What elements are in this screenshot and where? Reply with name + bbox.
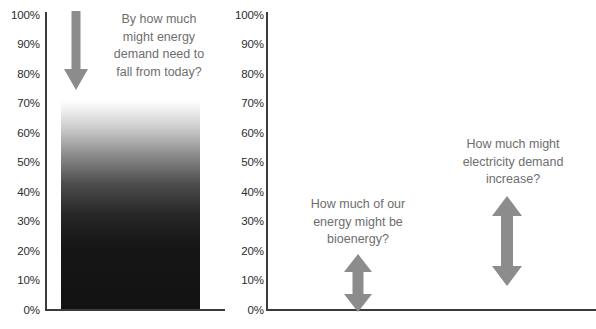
y-tick-label: 40%	[228, 186, 264, 198]
y-tick-label: 50%	[0, 156, 40, 168]
y-tick-label: 100%	[0, 9, 40, 21]
y-tick-label: 60%	[0, 127, 40, 139]
panel-energy-demand: 100% 90% 80% 70% 60% 50% 40% 30% 20% 10%…	[0, 0, 232, 329]
y-axis-line	[45, 12, 47, 311]
bioenergy-annotation: How much of our energy might be bioenerg…	[294, 196, 422, 249]
y-tick-label: 30%	[0, 215, 40, 227]
y-tick-label: 20%	[0, 245, 40, 257]
electricity-range-arrow-double-icon	[490, 196, 524, 286]
y-tick-label: 10%	[228, 274, 264, 286]
y-tick-label: 70%	[0, 97, 40, 109]
x-axis-line	[45, 309, 225, 311]
y-tick-label: 0%	[0, 304, 40, 316]
x-axis-line	[266, 309, 596, 311]
energy-demand-bar	[61, 100, 200, 309]
y-tick-label: 80%	[228, 68, 264, 80]
bioenergy-range-arrow-double-icon	[342, 254, 374, 312]
energy-scenario-figure: 100% 90% 80% 70% 60% 50% 40% 30% 20% 10%…	[0, 0, 596, 329]
y-tick-label: 100%	[228, 9, 264, 21]
y-tick-label: 30%	[228, 215, 264, 227]
y-tick-label: 70%	[228, 97, 264, 109]
y-tick-label: 50%	[228, 156, 264, 168]
y-tick-label: 40%	[0, 186, 40, 198]
demand-fall-annotation: By how much might energy demand need to …	[96, 11, 222, 81]
y-axis-line	[266, 12, 268, 311]
electricity-demand-annotation: How much might electricity demand increa…	[439, 136, 587, 189]
y-tick-label: 90%	[228, 38, 264, 50]
y-tick-label: 90%	[0, 38, 40, 50]
y-tick-label: 10%	[0, 274, 40, 286]
y-tick-label: 60%	[228, 127, 264, 139]
demand-fall-arrow-down-icon	[63, 11, 89, 91]
panel-energy-mix: 100% 90% 80% 70% 60% 50% 40% 30% 20% 10%…	[232, 0, 596, 329]
y-tick-label: 20%	[228, 245, 264, 257]
y-tick-label: 80%	[0, 68, 40, 80]
y-tick-label: 0%	[228, 304, 264, 316]
